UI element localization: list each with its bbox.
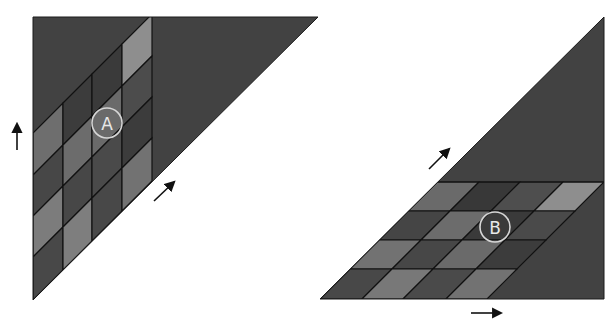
- diagram-canvas: A B: [0, 0, 614, 325]
- diagonal-arrow-icon: [429, 149, 449, 169]
- diagram-svg: A B: [0, 0, 614, 325]
- label-a-text: A: [101, 114, 113, 134]
- diagonal-arrow-icon: [154, 182, 174, 201]
- diagram-b: B: [320, 17, 604, 313]
- label-b-text: B: [489, 218, 501, 238]
- diagram-a: A: [17, 14, 318, 300]
